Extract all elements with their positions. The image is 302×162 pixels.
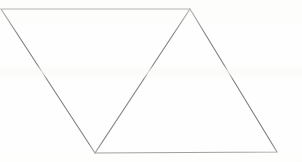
geometric-figure-svg (0, 0, 302, 162)
figure-canvas (0, 0, 302, 162)
parallelogram-outline (1, 9, 277, 153)
interior-diagonal (95, 9, 190, 153)
